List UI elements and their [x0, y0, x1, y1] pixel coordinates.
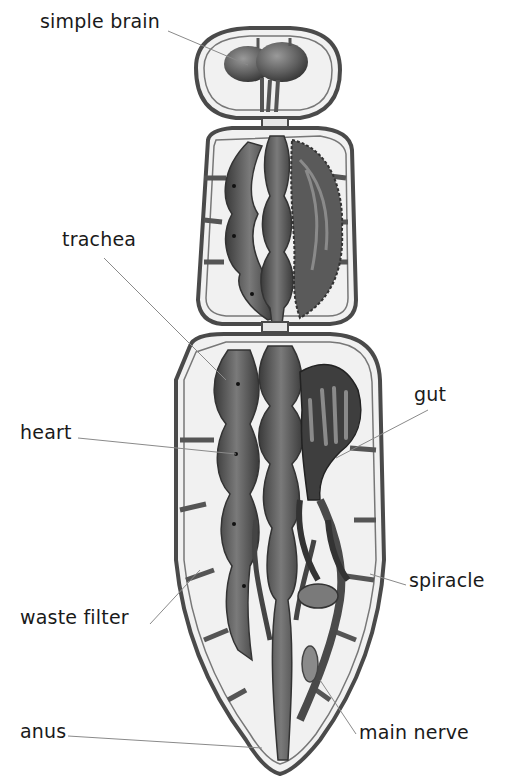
label-spiracle: spiracle: [409, 571, 485, 590]
label-trachea: trachea: [62, 230, 136, 249]
head-segment: [196, 28, 340, 128]
abdomen-segment: [176, 334, 384, 774]
label-gut: gut: [414, 385, 446, 404]
thorax-segment: [198, 128, 356, 332]
leader-line-anus: [68, 736, 262, 748]
label-waste-filter: waste filter: [20, 608, 129, 627]
label-simple-brain: simple brain: [40, 12, 160, 31]
label-main-nerve: main nerve: [359, 723, 469, 742]
label-heart: heart: [20, 423, 72, 442]
label-anus: anus: [20, 722, 66, 741]
